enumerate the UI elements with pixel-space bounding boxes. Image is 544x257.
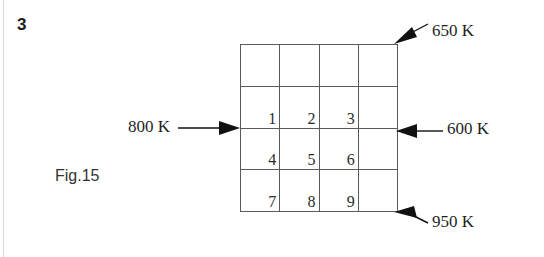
grid-cell: 8 [280, 170, 319, 212]
grid-cell [359, 129, 398, 171]
node-label: 3 [347, 111, 355, 127]
arrow-650k [394, 24, 428, 44]
problem-number: 3 [17, 15, 26, 35]
grid-cell [359, 87, 398, 129]
figure-container: 3 Fig.15 1 2 3 4 5 6 7 8 9 [0, 0, 544, 257]
grid-cell: 7 [241, 170, 280, 212]
figure-caption: Fig.15 [55, 167, 99, 185]
finite-difference-grid: 1 2 3 4 5 6 7 8 9 [240, 44, 398, 212]
node-label: 7 [268, 194, 276, 210]
temperature-label-top-right: 650 K [432, 21, 474, 41]
temperature-label-bottom-right: 950 K [432, 212, 474, 232]
grid-cell: 5 [280, 129, 319, 171]
arrow-800k [178, 121, 240, 135]
grid-cell: 3 [320, 87, 359, 129]
grid-cell [359, 170, 398, 212]
temperature-label-left: 800 K [128, 117, 170, 137]
arrow-600k [396, 124, 443, 138]
arrow-950k [394, 206, 428, 223]
node-label: 8 [308, 194, 316, 210]
grid-cell: 6 [320, 129, 359, 171]
grid-cell: 4 [241, 129, 280, 171]
grid-cell [320, 45, 359, 87]
grid-cell [359, 45, 398, 87]
grid-cell: 2 [280, 87, 319, 129]
temperature-label-middle-right: 600 K [447, 119, 489, 139]
grid-cell: 9 [320, 170, 359, 212]
grid-cell [241, 45, 280, 87]
page-edge-line [3, 0, 4, 257]
node-label: 1 [268, 111, 276, 127]
node-label: 2 [308, 111, 316, 127]
grid-cell: 1 [241, 87, 280, 129]
node-label: 6 [347, 152, 355, 168]
node-label: 9 [347, 194, 355, 210]
grid-cell [280, 45, 319, 87]
node-label: 4 [268, 152, 276, 168]
node-label: 5 [308, 152, 316, 168]
